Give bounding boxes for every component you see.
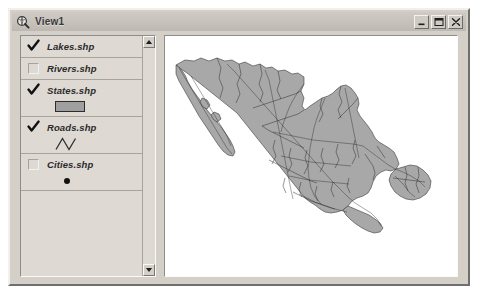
scroll-down-arrow-icon[interactable] (143, 264, 155, 276)
layer-list: Lakes.shp Rivers.shp (21, 36, 142, 276)
list-item[interactable]: Cities.shp (21, 154, 142, 191)
scrollbar-track[interactable] (143, 48, 155, 264)
window-title: View1 (35, 16, 64, 27)
layer-checkbox-rivers[interactable] (28, 63, 39, 74)
maximize-button[interactable] (431, 15, 446, 29)
layer-name-states: States.shp (47, 85, 96, 96)
legend-symbol-states (55, 99, 142, 114)
layer-checkbox-roads[interactable] (28, 122, 39, 133)
view-window: View1 (8, 8, 470, 286)
mexico-map (165, 36, 457, 276)
point-dot-icon (64, 178, 70, 184)
legend-symbol-cities (55, 173, 142, 188)
layer-table-of-contents[interactable]: Lakes.shp Rivers.shp (20, 35, 156, 277)
polygon-swatch-icon (55, 101, 85, 112)
layer-name-lakes: Lakes.shp (47, 41, 94, 52)
layer-checkbox-cities[interactable] (28, 159, 39, 170)
close-button[interactable] (448, 15, 463, 29)
list-item[interactable]: Lakes.shp (21, 36, 142, 58)
layer-name-roads: Roads.shp (47, 122, 96, 133)
list-item[interactable]: Roads.shp (21, 117, 142, 154)
scroll-up-arrow-icon[interactable] (143, 36, 155, 48)
window-titlebar[interactable]: View1 (12, 12, 466, 31)
list-item[interactable]: Rivers.shp (21, 58, 142, 80)
layer-name-cities: Cities.shp (47, 159, 93, 170)
legend-symbol-roads (55, 136, 142, 151)
layer-checkbox-states[interactable] (28, 85, 39, 96)
layer-name-rivers: Rivers.shp (47, 63, 97, 74)
layer-checkbox-lakes[interactable] (28, 41, 39, 52)
window-client-area: Lakes.shp Rivers.shp (12, 31, 466, 284)
toc-scrollbar[interactable] (142, 36, 155, 276)
zigzag-line-icon (55, 137, 81, 151)
magnifier-globe-icon (16, 15, 30, 29)
minimize-button[interactable] (414, 15, 429, 29)
list-item[interactable]: States.shp (21, 80, 142, 117)
map-view[interactable] (164, 35, 458, 277)
window-controls (414, 15, 463, 29)
